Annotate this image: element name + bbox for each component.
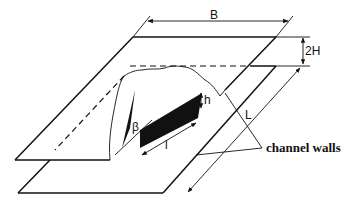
channel-diagram: B 2H h l β L channel walls [0, 0, 346, 205]
label-B: B [210, 8, 218, 22]
label-2H: 2H [305, 44, 320, 58]
label-beta: β [132, 120, 139, 134]
label-l: l [165, 138, 168, 152]
label-channel-walls: channel walls [266, 140, 341, 155]
rib-obstacle [140, 93, 202, 148]
walls-leader-1 [225, 93, 262, 148]
label-h: h [204, 93, 211, 107]
dim-L [188, 68, 300, 192]
walls-leader-2 [196, 148, 262, 155]
label-L: L [245, 108, 252, 122]
rib-side-profile [122, 90, 135, 148]
